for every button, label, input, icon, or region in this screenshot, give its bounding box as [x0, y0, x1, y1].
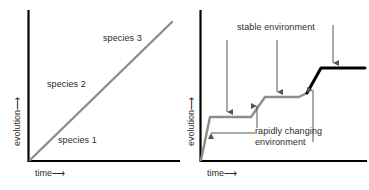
gradualism-curve — [30, 22, 172, 160]
x-axis-label-left: time⟶ — [35, 168, 65, 178]
annotation-stable-environment: stable environment — [237, 22, 315, 33]
x-axis-label-right: time⟶ — [207, 168, 237, 178]
y-axis-label-left: evolution⟶ — [12, 97, 22, 146]
annotation-environment: environment — [255, 137, 306, 148]
y-axis-arrow-left: ⟶ — [12, 97, 22, 110]
annotation-species-1: species 1 — [58, 135, 97, 146]
panel-punctuated-equilibrium: evolution⟶ time⟶ stable environment rapi… — [185, 0, 369, 190]
annotation-rapidly-changing: rapidly changing — [255, 126, 322, 137]
x-axis-label-right-text: time — [207, 168, 224, 178]
y-axis-label-left-text: evolution — [12, 110, 22, 146]
y-axis-label-right: evolution⟶ — [186, 97, 196, 146]
x-axis-arrow-right: ⟶ — [224, 168, 237, 178]
y-axis-arrow-right: ⟶ — [186, 97, 196, 110]
annotation-species-3: species 3 — [103, 33, 142, 44]
gradualism-plot — [0, 0, 185, 190]
punctuated-curve-black — [307, 68, 365, 93]
panel-gradualism: evolution⟶ time⟶ species 3 species 2 spe… — [0, 0, 185, 190]
y-axis-label-right-text: evolution — [186, 110, 196, 146]
annotation-species-2: species 2 — [47, 79, 86, 90]
x-axis-arrow-left: ⟶ — [52, 168, 65, 178]
x-axis-label-left-text: time — [35, 168, 52, 178]
evolution-figure: evolution⟶ time⟶ species 3 species 2 spe… — [0, 0, 369, 190]
